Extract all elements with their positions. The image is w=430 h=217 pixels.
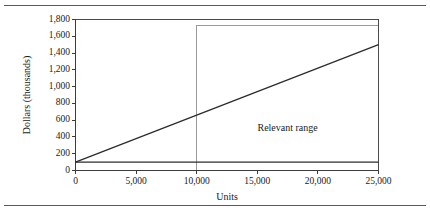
x-tick-label: 10,000 xyxy=(184,177,210,187)
x-tick-label: 0 xyxy=(73,177,78,187)
x-tick-label: 15,000 xyxy=(244,177,270,187)
y-tick-label: 1,200 xyxy=(34,65,70,75)
y-tick-label: 800 xyxy=(34,99,70,109)
y-tick-label: 1,400 xyxy=(34,48,70,58)
x-tick-label: 25,000 xyxy=(365,177,391,187)
cost-behavior-figure: 02004006008001,0001,2001,4001,6001,800 0… xyxy=(0,0,430,217)
relevant-range-label: Relevant range xyxy=(257,122,317,133)
x-tick-label: 5,000 xyxy=(125,177,146,187)
relevant-range-region xyxy=(197,25,379,170)
y-tick-label: 200 xyxy=(34,149,70,159)
x-axis-title: Units xyxy=(216,191,238,202)
y-tick-label: 1,000 xyxy=(34,82,70,92)
y-tick-label: 400 xyxy=(34,132,70,142)
plot-frame xyxy=(76,20,379,171)
relevant-range-box xyxy=(197,25,379,170)
y-tick-label: 1,800 xyxy=(34,15,70,25)
total-cost-line xyxy=(76,45,379,162)
tick-marks xyxy=(72,20,379,175)
y-tick-label: 600 xyxy=(34,115,70,125)
y-tick-label: 1,600 xyxy=(34,32,70,42)
data-series xyxy=(76,45,379,162)
y-tick-label: 0 xyxy=(34,166,70,176)
y-axis-title: Dollars (thousands) xyxy=(21,56,32,135)
x-tick-label: 20,000 xyxy=(305,177,331,187)
